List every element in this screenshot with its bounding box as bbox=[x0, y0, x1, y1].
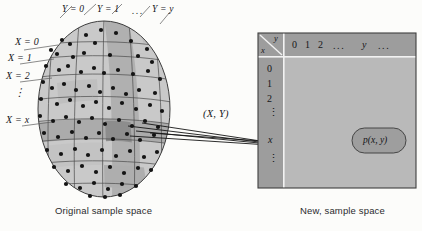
header-rule bbox=[258, 56, 416, 58]
caption-original: Original sample space bbox=[55, 205, 152, 216]
row-header-ellipsis-2: ⋮ bbox=[268, 152, 279, 165]
column-header-ellipsis-2: ... bbox=[378, 40, 390, 51]
new-sample-space bbox=[258, 33, 416, 188]
row-label-ellipsis: ⋮ bbox=[14, 86, 25, 99]
row-label-xx: X = x bbox=[6, 114, 29, 125]
figure-container: Y = 0 Y = 1 ... Y = y X = 0 X = 1 X = 2 … bbox=[0, 0, 422, 231]
original-sample-space bbox=[20, 4, 190, 209]
column-header-ellipsis-1: ... bbox=[333, 40, 345, 51]
row-label-x2: X = 2 bbox=[6, 70, 30, 81]
column-label-y1: Y = 1 bbox=[97, 4, 119, 14]
caption-new: New, sample space bbox=[300, 205, 385, 216]
column-header-2: 2 bbox=[318, 39, 323, 50]
row-label-x1: X = 1 bbox=[8, 52, 32, 63]
column-label-ellipsis: ... bbox=[132, 6, 144, 16]
mapping-label: (X, Y) bbox=[203, 108, 229, 119]
column-label-yy: Y = y bbox=[152, 4, 174, 14]
probability-label: p(x, y) bbox=[363, 135, 387, 145]
row-header-1: 1 bbox=[267, 78, 272, 89]
row-header-2: 2 bbox=[267, 93, 272, 104]
corner-col-var: y bbox=[274, 33, 278, 43]
index-rule bbox=[283, 33, 285, 188]
row-header-x: x bbox=[268, 134, 272, 145]
column-header-0: 0 bbox=[292, 39, 297, 50]
row-label-x0: X = 0 bbox=[15, 36, 39, 47]
corner-row-var: x bbox=[261, 45, 265, 55]
row-header-0: 0 bbox=[267, 63, 272, 74]
row-header-ellipsis-1: ⋮ bbox=[268, 106, 279, 119]
column-header-y: y bbox=[362, 39, 366, 50]
column-header-1: 1 bbox=[305, 39, 310, 50]
column-label-y0: Y = 0 bbox=[62, 4, 84, 14]
mapping-arrow-5 bbox=[150, 133, 275, 142]
